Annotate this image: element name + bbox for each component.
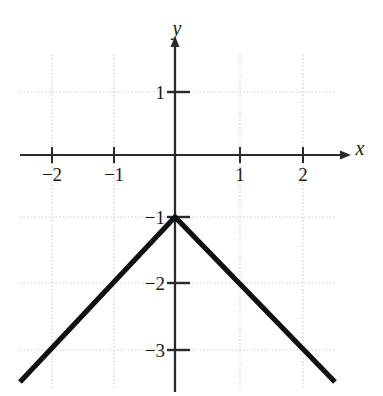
y-tick-label-neg3: −3: [145, 341, 165, 360]
graph-figure: −2 −1 1 2 1 −1 −2 −3 y x: [0, 0, 383, 396]
x-axis-label: x: [356, 138, 365, 158]
x-tick-label-neg1: −1: [104, 165, 124, 184]
x-tick-label-pos1: 1: [235, 165, 245, 184]
y-tick-label-pos1: 1: [156, 83, 166, 102]
y-tick-label-neg1: −1: [145, 208, 165, 227]
coordinate-plane-svg: [0, 0, 383, 396]
x-tick-label-pos2: 2: [298, 165, 308, 184]
y-axis-label: y: [173, 18, 182, 38]
y-tick-label-neg2: −2: [145, 274, 165, 293]
function-curve: [20, 217, 335, 382]
x-axis-arrowhead-icon: [340, 151, 351, 160]
x-axis: [20, 151, 351, 160]
x-tick-label-neg2: −2: [42, 165, 62, 184]
